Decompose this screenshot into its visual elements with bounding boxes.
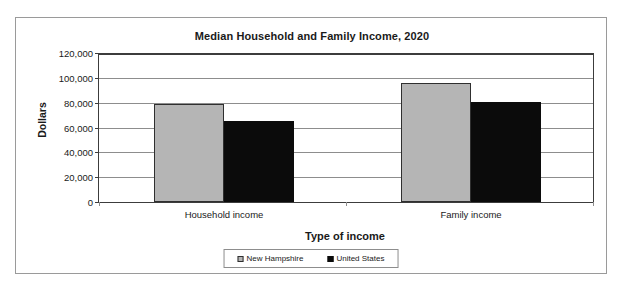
x-axis-category-label: Household income bbox=[185, 209, 264, 220]
legend-swatch-gray-icon bbox=[238, 256, 244, 262]
legend-item-united-states[interactable]: United States bbox=[327, 254, 384, 263]
legend-item-new-hampshire[interactable]: New Hampshire bbox=[238, 254, 304, 263]
y-axis-tick-label: 40,000 bbox=[64, 147, 93, 158]
chart-frame: Median Household and Family Income, 2020… bbox=[15, 17, 607, 274]
x-axis-tick-mark bbox=[346, 202, 347, 206]
y-axis-tick-label: 120,000 bbox=[59, 48, 93, 59]
y-axis-tick-mark bbox=[95, 177, 99, 178]
y-axis-tick-mark bbox=[95, 53, 99, 54]
plot-inner: 020,00040,00060,00080,000100,000120,000 … bbox=[99, 53, 593, 202]
y-axis-tick-mark bbox=[95, 103, 99, 104]
y-axis-title: Dollars bbox=[36, 90, 48, 150]
legend-item-label: United States bbox=[336, 254, 384, 263]
chart-legend: New HampshireUnited States bbox=[224, 249, 399, 268]
x-axis-title: Type of income bbox=[98, 230, 592, 242]
bar-family-income-new-hampshire bbox=[401, 83, 471, 202]
y-axis-tick-mark bbox=[95, 78, 99, 79]
gridline bbox=[99, 53, 593, 55]
y-axis-tick-label: 0 bbox=[88, 197, 93, 208]
x-axis-tick-mark bbox=[593, 202, 594, 206]
y-axis-tick-label: 60,000 bbox=[64, 122, 93, 133]
y-axis-tick-label: 100,000 bbox=[59, 72, 93, 83]
legend-item-label: New Hampshire bbox=[247, 254, 304, 263]
chart-title: Median Household and Family Income, 2020 bbox=[16, 30, 608, 42]
x-axis-tick-mark bbox=[99, 202, 100, 206]
x-axis-category-label: Family income bbox=[440, 209, 501, 220]
bar-household-income-united-states bbox=[224, 121, 294, 202]
bar-family-income-united-states bbox=[471, 102, 541, 202]
gridline bbox=[99, 78, 593, 79]
plot-right-edge bbox=[593, 53, 595, 202]
y-axis-tick-mark bbox=[95, 128, 99, 129]
y-axis-tick-label: 20,000 bbox=[64, 172, 93, 183]
bar-household-income-new-hampshire bbox=[154, 104, 224, 202]
y-axis-tick-label: 80,000 bbox=[64, 97, 93, 108]
legend-swatch-black-icon bbox=[327, 256, 333, 262]
y-axis-tick-mark bbox=[95, 152, 99, 153]
plot-area: 020,00040,00060,00080,000100,000120,000 … bbox=[98, 53, 593, 203]
